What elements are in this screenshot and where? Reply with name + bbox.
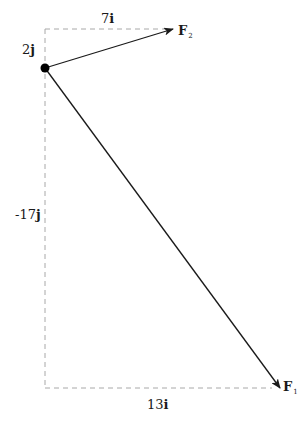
vector-f2-arrow — [45, 29, 173, 68]
vector-f1-arrow — [45, 68, 280, 388]
origin-point — [41, 64, 50, 73]
f1-j-component-label: -17j — [15, 207, 41, 222]
force-vector-diagram: 7i 2j -17j 13i F2 F1 — [0, 0, 304, 423]
f2-i-component-label: 7i — [101, 11, 114, 26]
f2-vector-label: F2 — [178, 23, 193, 40]
f1-vector-label: F1 — [283, 379, 298, 396]
f1-i-component-label: 13i — [147, 397, 169, 412]
f2-j-component-label: 2j — [22, 42, 35, 57]
component-guides — [45, 29, 272, 388]
